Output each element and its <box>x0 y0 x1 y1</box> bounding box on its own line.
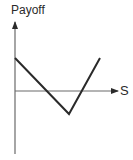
y-axis-label: Payoff <box>11 4 45 16</box>
chart-canvas <box>0 0 133 160</box>
payoff-line <box>15 58 100 114</box>
x-axis-label: S <box>120 84 129 97</box>
payoff-diagram: Payoff S <box>0 0 133 160</box>
